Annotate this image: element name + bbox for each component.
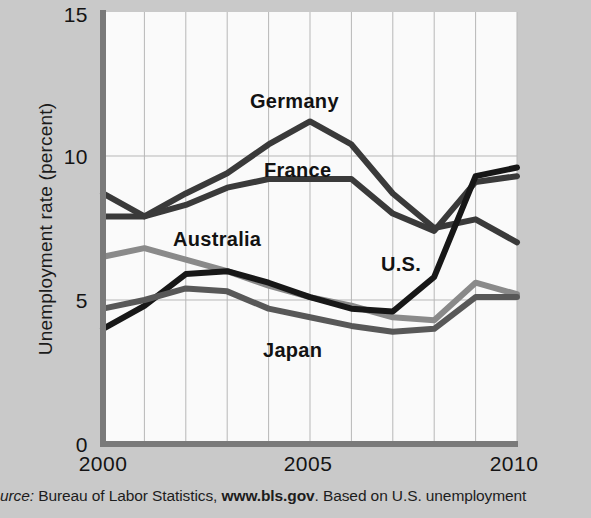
series-label-germany: Germany (250, 90, 339, 113)
caption-source-word: urce: (0, 487, 34, 504)
x-tick-label-2010: 2010 (469, 452, 559, 476)
source-caption: urce: Bureau of Labor Statistics, www.bl… (0, 487, 591, 505)
series-label-us: U.S. (381, 253, 421, 276)
x-tick-label-2005: 2005 (263, 452, 353, 476)
y-tick-label-10: 10 (42, 145, 88, 169)
caption-tail: . Based on U.S. unemployment (315, 487, 527, 504)
series-label-france: France (264, 159, 331, 182)
chart-figure: Unemployment rate (percent) 15 10 5 0 20… (0, 0, 591, 518)
caption-link[interactable]: www.bls.gov (221, 487, 314, 504)
series-label-japan: Japan (263, 339, 322, 362)
caption-body: Bureau of Labor Statistics, (34, 487, 222, 504)
y-tick-label-5: 5 (42, 289, 88, 313)
chart-plot-area (0, 0, 591, 518)
y-axis-title: Unemployment rate (percent) (35, 79, 57, 379)
y-tick-label-15: 15 (42, 3, 88, 27)
series-label-australia: Australia (173, 228, 261, 251)
x-tick-label-2000: 2000 (58, 452, 148, 476)
